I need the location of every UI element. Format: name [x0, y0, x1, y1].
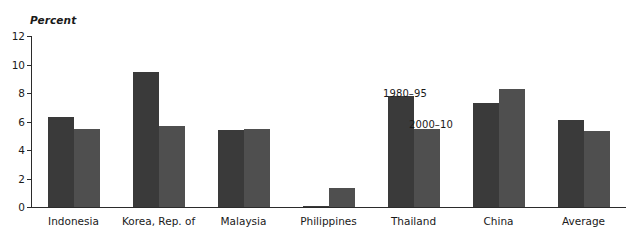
bar-group	[473, 36, 525, 207]
x-axis-category-label: Malaysia	[221, 215, 267, 227]
bar	[218, 130, 244, 207]
y-axis-line	[31, 36, 32, 207]
x-axis-category-label: China	[484, 215, 514, 227]
bar	[303, 206, 329, 207]
bar	[133, 72, 159, 207]
y-axis-tick-label: 2	[3, 174, 25, 184]
y-axis-tick-label: 6	[3, 117, 25, 127]
bar	[584, 131, 610, 207]
bar-chart: Percent 024681012 IndonesiaKorea, Rep. o…	[0, 0, 633, 247]
y-axis-tick-label: 12	[3, 31, 25, 41]
bar	[48, 117, 74, 207]
bar	[244, 129, 270, 207]
bar-group	[48, 36, 100, 207]
bar-group	[558, 36, 610, 207]
bar	[159, 126, 185, 207]
bar-group	[218, 36, 270, 207]
bar	[473, 103, 499, 207]
y-axis-tick-mark	[27, 36, 31, 37]
bar	[558, 120, 584, 207]
y-axis-tick-label: 10	[3, 60, 25, 70]
y-axis-tick-mark	[27, 179, 31, 180]
y-axis-tick-mark	[27, 65, 31, 66]
plot-area: 024681012 IndonesiaKorea, Rep. ofMalaysi…	[31, 36, 626, 207]
bar	[388, 96, 414, 207]
y-axis-tick-label: 0	[3, 202, 25, 212]
x-axis-category-label: Indonesia	[48, 215, 99, 227]
y-axis-tick-mark	[27, 122, 31, 123]
x-axis-category-label: Average	[562, 215, 605, 227]
y-axis-tick-mark	[27, 150, 31, 151]
bar	[414, 129, 440, 207]
series-annotation-1980-95: 1980–95	[383, 88, 427, 99]
bar	[74, 129, 100, 207]
x-axis-line	[31, 207, 626, 208]
bar-group	[303, 36, 355, 207]
y-axis-tick-mark	[27, 93, 31, 94]
x-axis-category-label: Thailand	[391, 215, 436, 227]
x-axis-category-label: Philippines	[300, 215, 357, 227]
bar	[329, 188, 355, 207]
y-axis-title: Percent	[30, 14, 76, 26]
x-axis-category-label: Korea, Rep. of	[122, 215, 195, 227]
series-annotation-2000-10: 2000–10	[409, 119, 453, 130]
bar-group	[133, 36, 185, 207]
y-axis-tick-mark	[27, 207, 31, 208]
y-axis-tick-label: 8	[3, 88, 25, 98]
bar	[499, 89, 525, 207]
y-axis-tick-label: 4	[3, 145, 25, 155]
